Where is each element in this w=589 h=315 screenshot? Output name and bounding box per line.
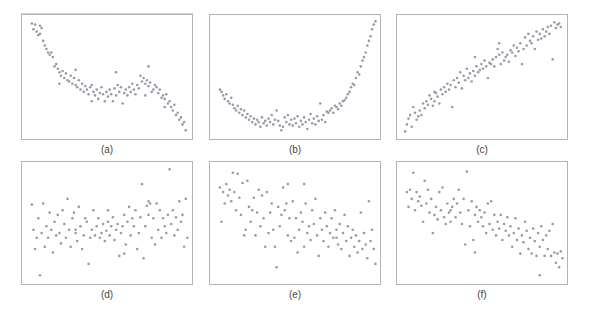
data-point bbox=[183, 121, 186, 124]
data-point bbox=[485, 232, 488, 235]
data-point bbox=[516, 239, 519, 242]
data-point bbox=[453, 79, 456, 82]
data-point bbox=[110, 93, 113, 96]
data-point bbox=[444, 91, 447, 94]
data-point bbox=[438, 191, 441, 194]
data-point bbox=[348, 255, 351, 258]
data-point bbox=[172, 209, 175, 212]
data-point bbox=[245, 228, 248, 231]
data-point bbox=[270, 202, 273, 205]
data-point bbox=[152, 217, 155, 220]
data-point bbox=[459, 211, 462, 214]
data-point bbox=[454, 216, 457, 219]
data-point bbox=[248, 119, 251, 122]
data-point bbox=[556, 252, 559, 255]
data-point bbox=[283, 209, 286, 212]
data-point bbox=[220, 220, 223, 223]
data-point bbox=[373, 23, 376, 26]
data-point bbox=[275, 266, 278, 269]
data-point bbox=[154, 243, 157, 246]
data-point bbox=[123, 214, 126, 217]
data-point bbox=[348, 91, 351, 94]
data-point bbox=[267, 232, 270, 235]
data-point bbox=[517, 227, 520, 230]
scatter-panel-c: (c) bbox=[396, 14, 568, 158]
data-point bbox=[508, 234, 511, 237]
data-point bbox=[32, 28, 35, 31]
data-point bbox=[175, 114, 178, 117]
data-point bbox=[142, 257, 145, 260]
data-point bbox=[219, 186, 222, 189]
data-point bbox=[94, 234, 97, 237]
data-point bbox=[97, 217, 100, 220]
data-point bbox=[321, 119, 324, 122]
data-point bbox=[32, 228, 35, 231]
data-point bbox=[87, 93, 90, 96]
data-point bbox=[107, 220, 110, 223]
data-point bbox=[490, 200, 493, 203]
data-point bbox=[180, 116, 183, 119]
data-point bbox=[529, 40, 532, 43]
data-point bbox=[545, 30, 548, 33]
data-point bbox=[178, 119, 181, 122]
data-point bbox=[511, 51, 514, 54]
data-point bbox=[138, 87, 141, 90]
data-point bbox=[459, 71, 462, 74]
data-point bbox=[487, 77, 490, 80]
data-point bbox=[356, 71, 359, 74]
data-point bbox=[87, 263, 90, 266]
data-point bbox=[290, 119, 293, 122]
data-point bbox=[254, 234, 257, 237]
data-point bbox=[488, 223, 491, 226]
data-point bbox=[493, 214, 496, 217]
data-point bbox=[374, 263, 377, 266]
data-point bbox=[92, 209, 95, 212]
data-point bbox=[351, 228, 354, 231]
data-point bbox=[548, 230, 551, 233]
data-point bbox=[131, 83, 134, 86]
data-point bbox=[509, 49, 512, 52]
data-point bbox=[113, 239, 116, 242]
data-point bbox=[139, 74, 142, 77]
data-point bbox=[296, 115, 299, 118]
data-point bbox=[74, 232, 77, 235]
data-point bbox=[470, 80, 473, 83]
data-point bbox=[306, 128, 309, 131]
data-point bbox=[428, 211, 431, 214]
data-point bbox=[366, 44, 369, 47]
data-point bbox=[482, 225, 485, 228]
data-point bbox=[407, 206, 410, 209]
data-point bbox=[73, 211, 76, 214]
data-point bbox=[147, 85, 150, 88]
data-point bbox=[249, 220, 252, 223]
data-point bbox=[287, 183, 290, 186]
data-point bbox=[282, 186, 285, 189]
data-point bbox=[262, 122, 265, 125]
data-point bbox=[39, 33, 42, 36]
data-point bbox=[347, 225, 350, 228]
data-point bbox=[542, 239, 545, 242]
data-point bbox=[129, 234, 132, 237]
data-point bbox=[115, 71, 118, 74]
data-point bbox=[128, 206, 131, 209]
data-point bbox=[167, 102, 170, 105]
data-point bbox=[295, 122, 298, 125]
data-point bbox=[107, 209, 110, 212]
data-point bbox=[314, 198, 317, 201]
data-point bbox=[298, 228, 301, 231]
data-point bbox=[60, 242, 63, 245]
data-point bbox=[95, 225, 98, 228]
data-point bbox=[57, 214, 60, 217]
data-point bbox=[94, 94, 97, 97]
data-point bbox=[417, 200, 420, 203]
data-point bbox=[503, 223, 506, 226]
data-point bbox=[522, 241, 525, 244]
data-point bbox=[483, 59, 486, 62]
data-point bbox=[173, 234, 176, 237]
plot-frame bbox=[21, 14, 193, 140]
data-point bbox=[309, 239, 312, 242]
data-point bbox=[412, 171, 415, 174]
data-point bbox=[529, 236, 532, 239]
data-point bbox=[134, 209, 137, 212]
data-point bbox=[39, 25, 42, 28]
